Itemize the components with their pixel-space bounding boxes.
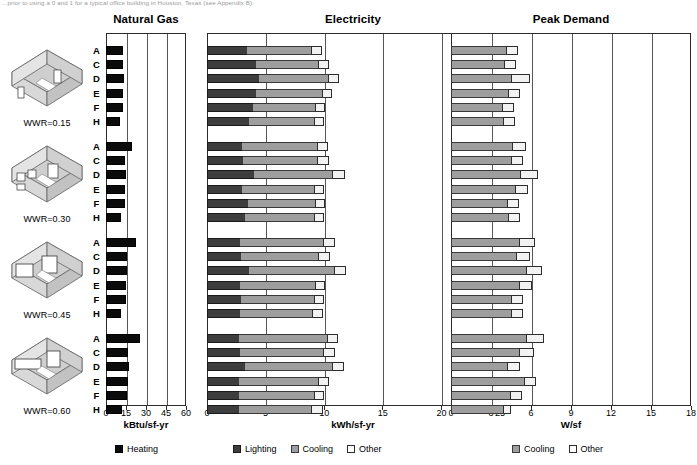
bar-electricity-WWR-030-D (207, 170, 345, 179)
bar-electricity-WWR-030-F (207, 199, 325, 208)
bar-electricity-WWR-045-F (207, 295, 324, 304)
segment-lighting (207, 377, 239, 386)
gridline (442, 34, 443, 405)
segment-cooling (256, 89, 322, 98)
bar-electricity-WWR-015-F (207, 103, 325, 112)
bar-natural-gas-WWR-030-A (106, 142, 132, 151)
segment-other (314, 117, 325, 126)
segment-cooling (248, 199, 315, 208)
thumbnail-wwr-030: WWR=0.30 (8, 140, 86, 232)
segment-heating (106, 295, 126, 304)
row-label-wwr-030-c: C (90, 156, 103, 165)
segment-heating (106, 309, 121, 318)
legend-label-heating: Heating (127, 444, 158, 454)
bar-electricity-WWR-015-H (207, 117, 324, 126)
legend-swatch-other-icon (569, 445, 577, 453)
legend-swatch-cooling-icon (512, 445, 520, 453)
row-label-wwr-045-e: E (90, 281, 103, 290)
gridline (167, 34, 168, 405)
axis-label-peak-demand: W/sf (481, 419, 661, 430)
axis-tick-label: 15 (639, 408, 663, 418)
bar-peak-demand-WWR-015-E (451, 89, 520, 98)
segment-other (311, 405, 323, 414)
segment-lighting (207, 60, 256, 69)
segment-cooling (245, 362, 333, 371)
gridline (612, 34, 613, 405)
segment-cooling (451, 405, 503, 414)
segment-other (314, 185, 325, 194)
bar-electricity-WWR-015-D (207, 74, 339, 83)
panel-title-electricity: Electricity (263, 13, 443, 25)
segment-lighting (207, 348, 240, 357)
row-label-wwr-015-d: D (90, 74, 103, 83)
room-illustration-icon (8, 236, 86, 308)
thumbnail-caption-wwr-015: WWR=0.15 (8, 118, 86, 128)
bar-peak-demand-WWR-060-E (451, 377, 536, 386)
segment-other (520, 170, 537, 179)
bar-natural-gas-WWR-015-C (106, 60, 123, 69)
segment-lighting (207, 213, 245, 222)
segment-cooling (239, 391, 314, 400)
segment-other (510, 391, 522, 400)
bar-peak-demand-WWR-030-C (451, 156, 523, 165)
segment-lighting (207, 89, 256, 98)
bar-electricity-WWR-060-E (207, 377, 329, 386)
segment-other (327, 334, 339, 343)
segment-cooling (256, 60, 318, 69)
segment-other (315, 103, 326, 112)
row-label-wwr-045-f: F (90, 295, 103, 304)
bar-electricity-WWR-030-E (207, 185, 324, 194)
segment-cooling (243, 156, 317, 165)
segment-cooling (451, 281, 519, 290)
legend-item-heating: Heating (115, 444, 158, 454)
bar-peak-demand-WWR-060-F (451, 391, 522, 400)
segment-other (511, 295, 523, 304)
segment-lighting (207, 156, 243, 165)
legend-natural-gas: Heating (115, 444, 172, 454)
segment-other (512, 142, 525, 151)
segment-other (524, 377, 536, 386)
bar-natural-gas-WWR-030-F (106, 199, 125, 208)
segment-lighting (207, 252, 241, 261)
bar-peak-demand-WWR-045-E (451, 281, 532, 290)
segment-heating (106, 74, 124, 83)
segment-cooling (451, 334, 526, 343)
segment-cooling (451, 266, 526, 275)
segment-heating (106, 170, 126, 179)
segment-other (311, 46, 322, 55)
segment-other (507, 362, 520, 371)
legend-swatch-lighting-icon (233, 445, 241, 453)
segment-heating (106, 377, 128, 386)
segment-heating (106, 391, 127, 400)
bar-electricity-WWR-030-C (207, 156, 329, 165)
segment-cooling (242, 185, 313, 194)
segment-other (511, 309, 523, 318)
bar-electricity-WWR-060-F (207, 391, 324, 400)
segment-cooling (451, 103, 502, 112)
segment-cooling (259, 74, 328, 83)
segment-heating (106, 185, 125, 194)
bar-electricity-WWR-015-E (207, 89, 332, 98)
segment-heating (106, 281, 126, 290)
room-illustration-icon (8, 332, 86, 404)
segment-cooling (451, 252, 516, 261)
row-label-wwr-030-e: E (90, 185, 103, 194)
segment-cooling (245, 213, 314, 222)
segment-cooling (253, 103, 315, 112)
segment-lighting (207, 142, 242, 151)
figure-caption: ...prior to using a 0 and 1 for a typica… (2, 0, 562, 8)
bar-natural-gas-WWR-030-D (106, 170, 126, 179)
segment-cooling (249, 117, 313, 126)
segment-heating (106, 103, 123, 112)
segment-cooling (451, 295, 511, 304)
room-illustration-icon (8, 140, 86, 212)
thumbnail-wwr-060: WWR=0.60 (8, 332, 86, 424)
segment-lighting (207, 295, 241, 304)
segment-lighting (207, 405, 239, 414)
legend-label-other: Other (359, 444, 382, 454)
bar-peak-demand-WWR-015-H (451, 117, 515, 126)
bar-peak-demand-WWR-045-D (451, 266, 542, 275)
bar-peak-demand-WWR-015-A (451, 46, 518, 55)
legend-item-cooling: Cooling (291, 444, 334, 454)
row-label-wwr-060-a: A (90, 334, 103, 343)
